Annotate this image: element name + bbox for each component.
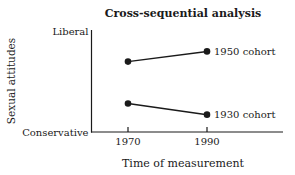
- chart-figure: Cross-sequential analysis 1970 1990 Libe…: [0, 0, 295, 175]
- y-axis-title: Sexual attitudes: [5, 38, 17, 124]
- chart-canvas: Cross-sequential analysis 1970 1990 Libe…: [0, 0, 295, 175]
- series-1950-point-1990: [204, 48, 211, 55]
- series-1930-line: [128, 103, 207, 114]
- series-1930-label: 1930 cohort: [214, 109, 276, 120]
- y-max-label: Liberal: [52, 26, 88, 37]
- series-1950-cohort: 1950 cohort: [125, 46, 276, 65]
- chart-title: Cross-sequential analysis: [105, 7, 262, 20]
- series-1930-cohort: 1930 cohort: [125, 100, 276, 120]
- series-1950-point-1970: [125, 58, 132, 65]
- x-tick-label-1990: 1990: [194, 136, 219, 147]
- y-min-label: Conservative: [22, 127, 88, 138]
- series-1930-point-1990: [204, 111, 211, 118]
- series-1950-line: [128, 51, 207, 61]
- series-1950-label: 1950 cohort: [214, 46, 276, 57]
- x-tick-label-1970: 1970: [115, 136, 140, 147]
- x-axis-title: Time of measurement: [122, 157, 245, 170]
- series-1930-point-1970: [125, 100, 132, 107]
